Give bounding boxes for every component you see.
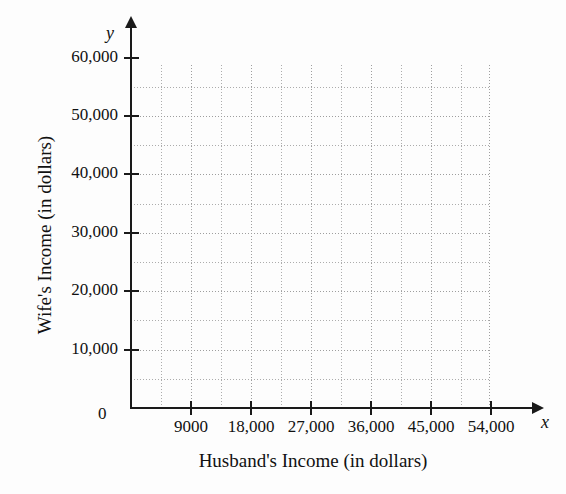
y-axis-tick-label: 60,000 (71, 47, 118, 67)
gridline-horizontal (131, 87, 490, 88)
gridline-horizontal (131, 116, 490, 117)
x-axis-title: Husband's Income (in dollars) (0, 450, 566, 472)
x-axis-tick-label: 54,000 (456, 417, 526, 437)
gridline-horizontal (131, 320, 490, 321)
y-axis-tick-label: 20,000 (71, 280, 118, 300)
y-axis-tick-label: 30,000 (71, 222, 118, 242)
gridline-horizontal (131, 174, 490, 175)
x-axis-tick (370, 401, 372, 415)
x-axis-tick (250, 401, 252, 415)
y-axis-variable-label: y (106, 23, 114, 44)
gridline-horizontal (131, 262, 490, 263)
y-axis-title: Wife's Income (in dollars) (34, 70, 56, 400)
y-axis-tick (124, 57, 139, 59)
gridline-horizontal (131, 204, 490, 205)
gridline-horizontal (131, 379, 490, 380)
gridline-horizontal (131, 291, 490, 292)
plot-area (131, 65, 490, 408)
y-axis-arrow-icon (125, 16, 137, 28)
chart-figure: 900018,00027,00036,00045,00054,00060,000… (0, 0, 566, 494)
origin-label: 0 (98, 404, 107, 424)
gridline-horizontal (131, 350, 490, 351)
y-axis-tick (124, 349, 139, 351)
x-axis-tick (190, 401, 192, 415)
y-axis-tick (124, 290, 139, 292)
y-axis-tick (124, 232, 139, 234)
gridline-horizontal (131, 145, 490, 146)
y-axis-tick (124, 173, 139, 175)
y-axis-tick-label: 40,000 (71, 163, 118, 183)
y-axis-tick (124, 115, 139, 117)
x-axis-tick (310, 401, 312, 415)
x-axis-variable-label: x (541, 412, 549, 433)
y-axis-tick-label: 50,000 (71, 105, 118, 125)
y-axis-line (130, 25, 132, 409)
y-axis-tick-label: 10,000 (71, 339, 118, 359)
x-axis-tick (430, 401, 432, 415)
x-axis-tick (490, 401, 492, 415)
gridline-horizontal (131, 233, 490, 234)
